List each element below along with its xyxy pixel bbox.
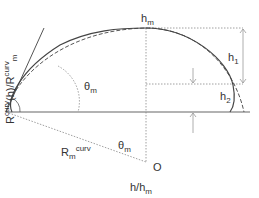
label-h2: h2 xyxy=(220,91,231,105)
label-theta-lower: θm xyxy=(118,140,131,154)
x-axis-label: h/hm xyxy=(130,182,152,196)
label-h1: h1 xyxy=(228,52,239,66)
theta-arc-upper xyxy=(58,66,79,112)
label-origin: O xyxy=(153,162,162,173)
label-h-m: hm xyxy=(141,13,154,27)
solid-profile xyxy=(11,28,235,112)
label-radius: Rmcurv xyxy=(61,145,91,161)
label-theta-upper: θm xyxy=(84,81,97,95)
dashed-profile xyxy=(6,28,244,112)
y-axis-label: Rcurv(h)/Rcurvm xyxy=(2,55,19,124)
